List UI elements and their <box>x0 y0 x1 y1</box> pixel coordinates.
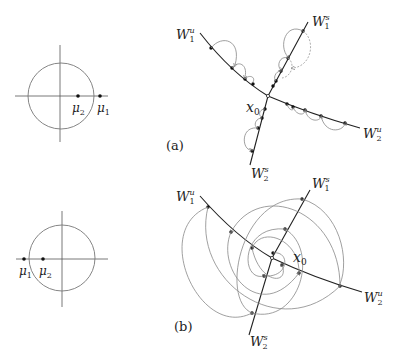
label-W1s: Ws1 <box>312 13 330 31</box>
label-W1u: Wu1 <box>176 26 195 44</box>
eigenvalue-dot-mu2 <box>76 94 80 98</box>
unit-circle-bottom: μ1 μ2 <box>16 211 108 307</box>
label-W2u: Wu2 <box>363 125 382 143</box>
panel-label-b: (b) <box>174 319 192 334</box>
panel-label-a: (a) <box>166 138 184 153</box>
label-x0: x0 <box>293 249 307 267</box>
label-mu2: μ2 <box>39 264 52 280</box>
label-W2u: Wu2 <box>364 289 383 307</box>
fixed-point-marker <box>270 256 273 259</box>
panel-b: Wu1 Ws1 Wu2 Ws2 x0 (b) <box>174 175 383 351</box>
label-mu1: μ1 <box>97 101 110 117</box>
stable-manifold <box>250 22 308 165</box>
label-W2s: Ws2 <box>251 165 269 183</box>
fixed-point-marker <box>266 94 269 97</box>
label-W2s: Ws2 <box>250 333 268 351</box>
figure-canvas: μ2 μ1 μ1 μ2 <box>0 0 398 355</box>
label-W1u: Wu1 <box>176 188 195 206</box>
panel-a: Wu1 Ws1 Wu2 Ws2 x0 (a) <box>166 13 382 183</box>
eigenvalue-dot-mu1 <box>98 94 102 98</box>
eigenvalue-dot-mu2 <box>41 257 45 261</box>
unit-circle-top: μ2 μ1 <box>15 45 110 142</box>
label-mu2: μ2 <box>72 101 85 117</box>
eigenvalue-dot-mu1 <box>22 257 26 261</box>
label-W1s: Ws1 <box>312 175 330 193</box>
unstable-manifold <box>200 33 360 128</box>
label-x0: x0 <box>246 99 260 117</box>
